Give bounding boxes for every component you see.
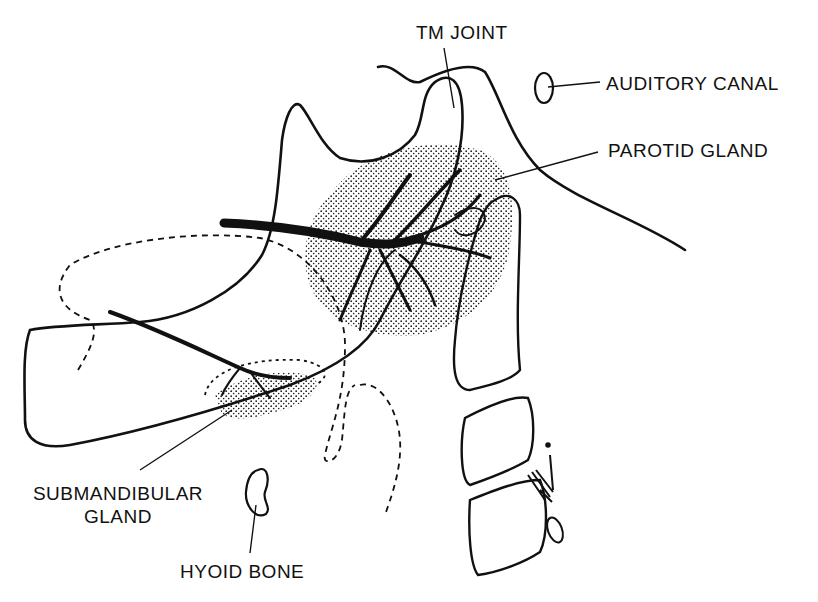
auditory-canal-shape [535, 73, 553, 103]
label-hyoid-bone: HYOID BONE [180, 561, 304, 583]
diagram-canvas: TM JOINT AUDITORY CANAL PAROTID GLAND SU… [0, 0, 818, 602]
label-submandibular-line1: SUBMANDIBULAR [18, 483, 218, 505]
label-auditory-canal: AUDITORY CANAL [606, 73, 779, 95]
label-submandibular-line2: GLAND [18, 506, 218, 528]
leader-submandibular [140, 410, 232, 470]
label-tm-joint: TM JOINT [416, 22, 508, 44]
label-parotid-gland: PAROTID GLAND [608, 140, 768, 162]
hyoid-bone-shape [246, 469, 268, 515]
leader-auditory-canal [548, 82, 600, 87]
artist-signature [528, 443, 566, 544]
